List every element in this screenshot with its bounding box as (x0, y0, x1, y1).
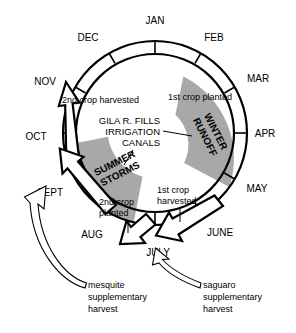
mesquite-harvest-line1: mesquite (88, 280, 125, 290)
mesquite-arrow (25, 186, 87, 288)
gila-note-line-3: CANALS (122, 137, 160, 148)
month-label-mar: MAR (247, 73, 269, 84)
second-crop-harvested-label: 2nd crop harvested (62, 95, 139, 105)
month-label-aug: AUG (81, 229, 103, 240)
saguaro-harvest-line1: saguaro (203, 280, 236, 290)
mesquite-harvest-line3: harvest (88, 304, 118, 314)
month-label-june: JUNE (207, 227, 233, 238)
second-crop-planted-label-line2: planted (99, 208, 129, 218)
month-label-oct: OCT (25, 131, 46, 142)
saguaro-arrow (153, 248, 202, 288)
month-label-feb: FEB (204, 32, 224, 43)
month-label-dec: DEC (77, 32, 98, 43)
saguaro-harvest-line3: harvest (203, 304, 233, 314)
first-crop-planted-label: 1st crop planted (168, 92, 232, 102)
diagram-root: WINTER RUNOFF SUMMER STORMS JAN FEB MAR … (0, 0, 296, 333)
gila-note-line-2: IRRIGATION (105, 126, 160, 137)
first-crop-harvested-label-line1: 1st crop (157, 185, 189, 195)
tick-dec (109, 53, 115, 63)
second-crop-planted-label-line1: 2nd crop (99, 197, 134, 207)
gila-note-line-1: GILA R. FILLS (99, 115, 160, 126)
month-label-jan: JAN (146, 15, 165, 26)
mesquite-harvest-line2: supplementary (88, 292, 148, 302)
month-label-may: MAY (247, 183, 268, 194)
tick-feb (195, 53, 201, 63)
tick-nov (75, 87, 85, 93)
first-crop-harvested-label-line2: harvested (157, 196, 197, 206)
month-label-nov: NOV (34, 76, 56, 87)
saguaro-harvest-line2: supplementary (203, 292, 263, 302)
cycle-diagram: WINTER RUNOFF SUMMER STORMS JAN FEB MAR … (0, 0, 296, 333)
footnote-labels: mesquite supplementary harvest saguaro s… (88, 280, 263, 314)
month-label-apr: APR (255, 128, 276, 139)
